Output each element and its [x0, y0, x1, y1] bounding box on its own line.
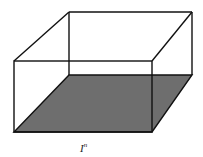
shaded-base-face [14, 75, 192, 132]
cube-label: In [80, 141, 87, 154]
edge-top-right-diagonal [152, 12, 192, 61]
edge-top-left-diagonal [14, 12, 69, 61]
label-exponent: n [84, 141, 88, 149]
box-diagram [0, 0, 203, 157]
